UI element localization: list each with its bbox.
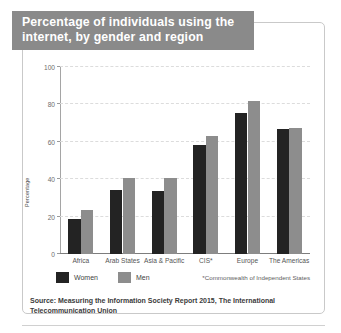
plot-inner: 020406080100 AfricaArab StatesAsia & Pac… [60, 67, 310, 254]
chart-legend: Women Men [56, 272, 163, 283]
bar-group: Arab States [102, 67, 144, 254]
y-tick-label: 100 [44, 64, 55, 71]
x-tick-label: The Americas [268, 257, 310, 264]
bar-men [81, 210, 93, 254]
chart-figure: Percentage of individuals using the inte… [0, 0, 341, 333]
bar-women [277, 129, 289, 254]
chart-source: Source: Measuring the Information Societ… [30, 296, 300, 315]
y-tick-label: 0 [51, 251, 55, 258]
bar-men [164, 178, 176, 254]
bars-layer: AfricaArab StatesAsia & PacificCIS*Europ… [60, 67, 310, 254]
y-tick-label: 20 [48, 213, 55, 220]
x-tick-label: CIS* [185, 257, 227, 264]
y-axis-title: Percentage [24, 177, 30, 207]
legend-item-women: Women [56, 272, 98, 283]
bar-men [123, 178, 135, 254]
bar-men [248, 101, 260, 254]
bar-women [235, 113, 247, 254]
chart-title-banner: Percentage of individuals using the inte… [12, 11, 254, 50]
x-tick-label: Arab States [102, 257, 144, 264]
bar-men [206, 136, 218, 254]
legend-item-men: Men [118, 272, 150, 283]
legend-label-men: Men [136, 274, 150, 281]
legend-label-women: Women [74, 274, 98, 281]
y-tick-label: 40 [48, 176, 55, 183]
x-tick-label: Africa [60, 257, 102, 264]
x-tick-label: Asia & Pacific [143, 257, 185, 264]
bar-women [110, 190, 122, 254]
plot-area: Percentage 020406080100 AfricaArab State… [22, 55, 325, 265]
bar-women [193, 145, 205, 254]
bar-group: CIS* [185, 67, 227, 254]
y-tick-label: 60 [48, 138, 55, 145]
chart-footnote: *Commonwealth of Independent States [202, 274, 310, 281]
legend-swatch-men-icon [118, 272, 131, 283]
y-tick-label: 80 [48, 101, 55, 108]
bar-group: Europe [227, 67, 269, 254]
bar-women [152, 191, 164, 254]
bar-group: Africa [60, 67, 102, 254]
bottom-divider [22, 325, 325, 326]
x-tick-label: Europe [227, 257, 269, 264]
bar-men [289, 128, 301, 254]
bar-group: The Americas [268, 67, 310, 254]
legend-swatch-women-icon [56, 272, 69, 283]
bar-women [68, 219, 80, 254]
bar-group: Asia & Pacific [143, 67, 185, 254]
page-title: Percentage of individuals using the inte… [22, 15, 246, 44]
